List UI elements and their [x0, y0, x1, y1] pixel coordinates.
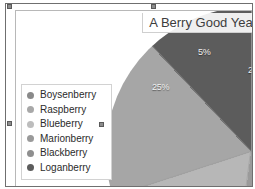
document-page-frame: 25% 5% 2 A Berry Good Year BoysenberryRa… — [5, 3, 253, 187]
screenshot-root: 25% 5% 2 A Berry Good Year BoysenberryRa… — [0, 0, 255, 189]
selection-handle-top-center[interactable] — [151, 4, 156, 9]
legend-swatch-icon — [27, 106, 34, 113]
legend-item-label: Marionberry — [40, 132, 93, 147]
legend-item[interactable]: Blackberry — [27, 146, 107, 161]
legend-swatch-icon — [27, 150, 34, 157]
legend-item-label: Loganberry — [40, 161, 91, 176]
chart-object[interactable]: 25% 5% 2 A Berry Good Year BoysenberryRa… — [15, 10, 253, 187]
legend-swatch-icon — [27, 164, 34, 171]
legend-swatch-icon — [27, 92, 34, 99]
selection-handle-middle-left[interactable] — [7, 121, 12, 126]
legend-item-label: Raspberry — [40, 103, 86, 118]
legend-item[interactable]: Blueberry — [27, 117, 107, 132]
pie-label-raspberry: 5% — [198, 47, 211, 57]
legend-swatch-icon — [27, 135, 34, 142]
chart-title[interactable]: A Berry Good Year — [142, 13, 253, 33]
legend-handle-middle-right[interactable] — [99, 122, 104, 127]
legend-item[interactable]: Marionberry — [27, 132, 107, 147]
pie-label-boysenberry: 25% — [152, 82, 169, 92]
legend-item-label: Boysenberry — [40, 88, 96, 103]
legend-item-label: Blackberry — [40, 146, 87, 161]
legend-item[interactable]: Boysenberry — [27, 88, 107, 103]
legend-item[interactable]: Raspberry — [27, 103, 107, 118]
legend-swatch-icon — [27, 121, 34, 128]
pie-chart[interactable]: 25% 5% 2 — [106, 11, 253, 187]
chart-legend[interactable]: BoysenberryRaspberryBlueberryMarionberry… — [21, 84, 112, 180]
pie-plot-area[interactable]: 25% 5% 2 A Berry Good Year BoysenberryRa… — [16, 11, 253, 187]
pie-disc[interactable] — [106, 11, 253, 187]
selection-handle-top-left[interactable] — [7, 4, 12, 9]
legend-item[interactable]: Loganberry — [27, 161, 107, 176]
legend-item-label: Blueberry — [40, 117, 83, 132]
